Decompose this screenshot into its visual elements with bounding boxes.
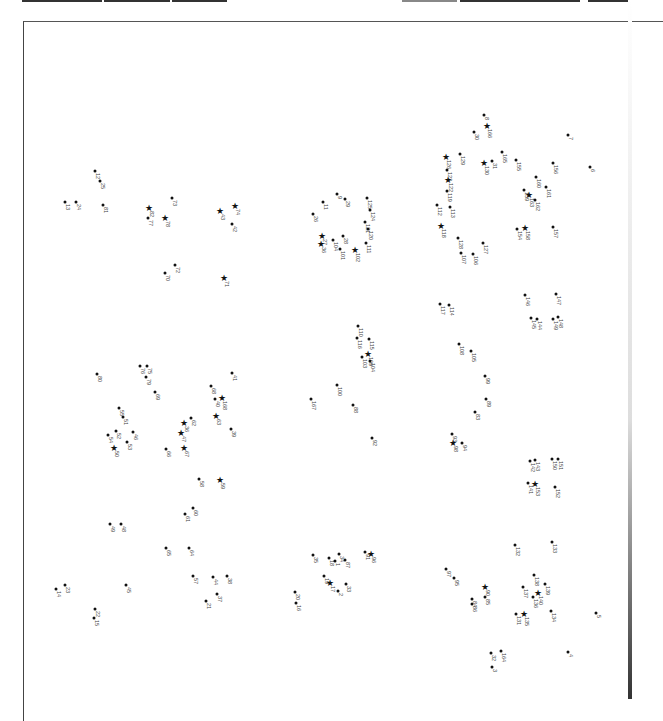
point-number-label: 80: [97, 376, 103, 382]
point-number-label: 102: [355, 253, 361, 262]
point-number-label: 156: [553, 165, 559, 174]
point-number-label: 106: [473, 256, 479, 265]
point-number-label: 44: [213, 579, 219, 585]
point-number-label: 94: [462, 445, 468, 451]
point-number-label: 82: [149, 211, 155, 217]
point-number-label: 76: [140, 368, 146, 374]
point-number-label: 68: [211, 388, 217, 394]
point-number-label: 96: [371, 557, 377, 563]
point-number-label: 117: [440, 306, 446, 315]
point-number-label: 33: [346, 586, 352, 592]
point-number-label: 53: [127, 444, 133, 450]
point-number-label: 162: [535, 202, 541, 211]
point-number-label: 124: [370, 212, 376, 221]
point-number-label: 4: [568, 654, 574, 657]
point-number-label: 30: [474, 134, 480, 140]
point-number-label: 5: [596, 615, 602, 618]
point-number-label: 155: [516, 162, 522, 171]
point-number-label: 114: [449, 307, 455, 316]
point-number-label: 88: [353, 407, 359, 413]
point-number-label: 98: [453, 446, 459, 452]
point-number-label: 73: [172, 200, 178, 206]
point-number-label: 17: [330, 586, 336, 592]
point-number-label: 69: [155, 394, 161, 400]
point-number-label: 51: [123, 419, 129, 425]
point-number-label: 50: [114, 451, 120, 457]
point-number-label: 151: [558, 461, 564, 470]
point-number-label: 112: [437, 207, 443, 216]
point-number-label: 52: [116, 433, 122, 439]
point-number-label: 71: [224, 281, 230, 287]
point-number-label: 38: [227, 578, 233, 584]
point-number-label: 20: [295, 594, 301, 600]
point-number-label: 7: [568, 137, 574, 140]
point-number-label: 46: [133, 434, 139, 440]
point-number-label: 92: [372, 440, 378, 446]
point-number-label: 140: [538, 596, 544, 605]
point-number-label: 60: [193, 510, 199, 516]
point-number-label: 14: [56, 591, 62, 597]
point-number-label: 81: [103, 207, 109, 213]
point-number-label: 11: [323, 204, 329, 210]
point-number-label: 87: [345, 562, 351, 568]
point-number-label: 97: [446, 571, 452, 577]
point-number-label: 24: [76, 204, 82, 210]
point-number-label: 147: [556, 296, 562, 305]
point-number-label: 116: [357, 340, 363, 349]
point-number-label: 15: [94, 620, 100, 626]
point-number-label: 74: [235, 209, 241, 215]
point-number-label: 47: [181, 436, 187, 442]
point-number-label: 62: [191, 420, 197, 426]
point-number-label: 137: [523, 589, 529, 598]
point-number-label: 132: [515, 547, 521, 556]
point-number-label: 133: [552, 544, 558, 553]
point-number-label: 111: [366, 245, 372, 253]
puzzle-frame: [23, 21, 663, 721]
point-number-label: 164: [501, 653, 507, 662]
point-number-label: 63: [216, 419, 222, 425]
point-number-label: 105: [471, 353, 477, 362]
point-number-label: 61: [185, 516, 191, 522]
point-number-label: 28: [343, 238, 349, 244]
point-number-label: 139: [545, 586, 551, 595]
point-number-label: 77: [148, 220, 154, 226]
point-number-label: 120: [368, 231, 374, 240]
point-number-label: 113: [450, 209, 456, 218]
point-number-label: 148: [558, 319, 564, 328]
point-number-label: 41: [232, 375, 238, 381]
point-number-label: 118: [441, 229, 447, 238]
point-number-label: 166: [487, 129, 493, 138]
point-number-label: 128: [458, 240, 464, 249]
point-number-label: 48: [121, 526, 127, 532]
point-number-label: 143: [535, 462, 541, 471]
point-number-label: 65: [166, 550, 172, 556]
point-number-label: 79: [146, 379, 152, 385]
point-number-label: 35: [313, 557, 319, 563]
point-number-label: 1: [335, 563, 341, 566]
point-number-label: 75: [147, 368, 153, 374]
point-number-label: 157: [553, 229, 559, 238]
point-number-label: 16: [296, 605, 302, 611]
point-number-label: 100: [337, 387, 343, 396]
point-number-label: 22: [95, 611, 101, 617]
point-number-label: 85: [485, 599, 491, 605]
point-number-label: 153: [535, 487, 541, 496]
point-number-label: 134: [551, 613, 557, 622]
point-number-label: 13: [65, 204, 71, 210]
point-number-label: 146: [525, 297, 531, 306]
point-number-label: 103: [362, 359, 368, 368]
point-number-label: 64: [189, 550, 195, 556]
point-number-label: 58: [199, 481, 205, 487]
point-number-label: 25: [100, 183, 106, 189]
point-number-label: 95: [454, 580, 460, 586]
point-number-label: 57: [193, 578, 199, 584]
point-number-label: 66: [166, 451, 172, 457]
point-number-label: 45: [126, 587, 132, 593]
point-number-label: 59: [220, 483, 226, 489]
point-number-label: 43: [220, 214, 226, 220]
point-number-label: 152: [555, 489, 561, 498]
point-number-label: 72: [175, 267, 181, 273]
point-number-label: 160: [536, 179, 542, 188]
point-number-label: 31: [492, 163, 498, 169]
point-number-label: 67: [184, 451, 190, 457]
